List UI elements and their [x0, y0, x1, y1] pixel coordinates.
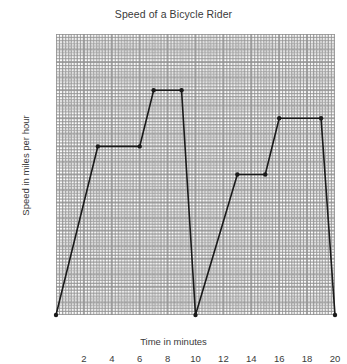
data-point	[54, 313, 58, 317]
data-point	[151, 88, 155, 92]
data-point	[263, 172, 267, 176]
x-tick-label: 16	[274, 353, 285, 364]
data-point	[179, 88, 183, 92]
x-tick-label: 2	[81, 353, 86, 364]
data-point	[193, 313, 197, 317]
data-series-line	[56, 34, 335, 315]
plot-area: 2468101214161820 2468101214161820	[56, 34, 335, 315]
x-tick-label: 20	[330, 353, 341, 364]
x-tick-label: 4	[109, 353, 114, 364]
data-point	[277, 116, 281, 120]
x-tick-label: 6	[137, 353, 142, 364]
data-point	[96, 144, 100, 148]
x-tick-label: 8	[165, 353, 170, 364]
x-tick-label: 10	[190, 353, 201, 364]
x-tick-label: 14	[246, 353, 257, 364]
data-point	[319, 116, 323, 120]
data-point	[333, 313, 337, 317]
y-axis-label: Speed in miles per hour	[20, 26, 31, 306]
chart-title: Speed of a Bicycle Rider	[0, 8, 347, 20]
x-axis-label: Time in minutes	[0, 336, 347, 347]
data-point	[138, 144, 142, 148]
x-tick-label: 18	[302, 353, 313, 364]
x-tick-label: 12	[218, 353, 229, 364]
data-point	[235, 172, 239, 176]
